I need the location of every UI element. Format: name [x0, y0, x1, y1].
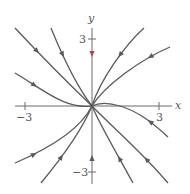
arrow-icon	[116, 155, 123, 163]
y-tick-label-neg3: −3	[72, 167, 88, 178]
y-axis-upper-arrow-icon	[89, 51, 94, 57]
arrow-icon	[59, 51, 66, 59]
y-tick-label-pos3: 3	[79, 34, 86, 45]
trajectory-upper-right-shallow	[92, 47, 170, 106]
trajectory-upper-right-steep	[92, 28, 144, 106]
trajectory-lower-right-steep	[92, 106, 133, 183]
arrow-icon	[30, 151, 38, 158]
phase-portrait	[0, 0, 190, 194]
arrow-icon	[31, 81, 39, 89]
y-axis-lower-arrow-icon	[89, 155, 94, 161]
x-tick-label-neg3: −3	[16, 112, 32, 123]
y-axis-label: y	[88, 13, 94, 24]
arrow-icon	[146, 53, 154, 61]
x-tick-label-pos3: 3	[156, 112, 163, 123]
x-axis-label: x	[175, 100, 181, 111]
